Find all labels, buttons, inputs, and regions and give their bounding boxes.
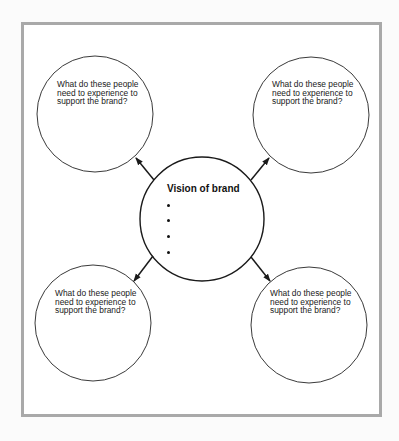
bullet-point <box>167 235 170 238</box>
node-text-bottom-right: What do these people need to experience … <box>270 289 354 315</box>
arrow-to-bottom-left <box>134 256 153 281</box>
node-circle-bottom-left <box>35 265 151 381</box>
node-text-bottom-left: What do these people need to experience … <box>55 289 139 315</box>
center-title: Vision of brand <box>167 183 240 194</box>
bullet-point <box>167 251 170 254</box>
diagram-canvas: What do these people need to experience … <box>0 0 399 441</box>
arrow-to-top-right <box>251 158 269 180</box>
node-circle-bottom-right <box>251 267 367 383</box>
bullet-point <box>167 204 170 207</box>
node-circle-top-left <box>37 56 153 172</box>
arrow-to-bottom-right <box>251 257 270 281</box>
node-text-top-left: What do these people need to experience … <box>57 80 141 106</box>
bullet-point <box>167 219 170 222</box>
node-circle-top-right <box>253 57 369 173</box>
diagram-graphic <box>0 0 399 441</box>
arrow-to-top-left <box>136 158 154 180</box>
center-circle <box>140 157 264 281</box>
node-text-top-right: What do these people need to experience … <box>272 80 356 106</box>
